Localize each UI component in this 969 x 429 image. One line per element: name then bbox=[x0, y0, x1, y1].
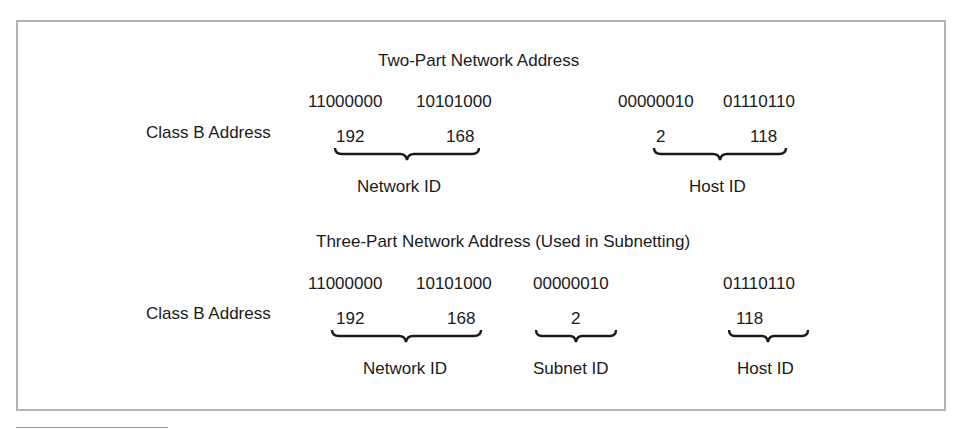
two-part-row-label: Class B Address bbox=[146, 123, 271, 143]
two-part-title: Two-Part Network Address bbox=[378, 51, 579, 71]
two-part-network-id-label: Network ID bbox=[357, 177, 441, 197]
two-part-decimal-octet-3: 2 bbox=[656, 127, 665, 147]
three-part-decimal-octet-2: 168 bbox=[447, 309, 475, 329]
three-part-row-label: Class B Address bbox=[146, 304, 271, 324]
two-part-binary-octet-4: 01110110 bbox=[723, 92, 795, 112]
subnet-id-brace-icon bbox=[535, 329, 617, 343]
two-part-host-id-label: Host ID bbox=[689, 177, 746, 197]
network-id-brace-icon bbox=[334, 147, 480, 161]
host-id-brace-icon bbox=[728, 329, 809, 343]
network-id-brace-icon bbox=[331, 329, 482, 343]
two-part-decimal-octet-4: 118 bbox=[750, 127, 777, 147]
three-part-binary-octet-2: 10101000 bbox=[416, 274, 492, 294]
three-part-binary-octet-1: 11000000 bbox=[308, 274, 382, 294]
three-part-decimal-octet-4: 118 bbox=[736, 309, 763, 329]
three-part-decimal-octet-1: 192 bbox=[336, 309, 364, 329]
host-id-brace-icon bbox=[653, 147, 787, 161]
two-part-decimal-octet-2: 168 bbox=[446, 127, 474, 147]
three-part-subnet-id-label: Subnet ID bbox=[533, 359, 609, 379]
three-part-host-id-label: Host ID bbox=[737, 359, 794, 379]
two-part-binary-octet-3: 00000010 bbox=[618, 92, 694, 112]
footnote-rule bbox=[16, 427, 168, 428]
three-part-title: Three-Part Network Address (Used in Subn… bbox=[316, 232, 690, 252]
two-part-decimal-octet-1: 192 bbox=[336, 127, 364, 147]
three-part-decimal-octet-3: 2 bbox=[571, 309, 580, 329]
figure-frame bbox=[16, 20, 946, 411]
two-part-binary-octet-1: 11000000 bbox=[308, 92, 382, 112]
three-part-binary-octet-4: 01110110 bbox=[723, 274, 795, 294]
three-part-binary-octet-3: 00000010 bbox=[533, 274, 609, 294]
three-part-network-id-label: Network ID bbox=[363, 359, 447, 379]
two-part-binary-octet-2: 10101000 bbox=[416, 92, 492, 112]
